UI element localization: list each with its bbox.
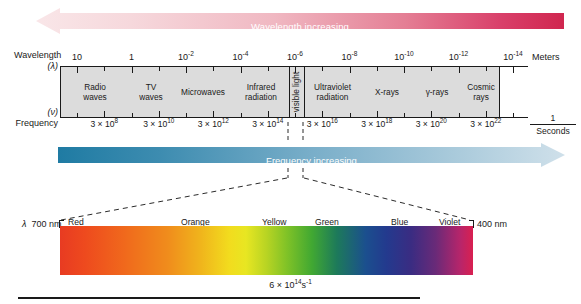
frequency-tick-label: 3 × 1012	[198, 119, 229, 129]
seconds-unit-numerator: 1	[530, 113, 576, 123]
frequency-tick-base: 3 × 10	[470, 119, 494, 129]
band-label-line1: X-rays	[375, 87, 399, 98]
frequency-tick-base: 3 × 10	[198, 119, 222, 129]
band-label: Cosmicrays	[467, 82, 495, 103]
visible-frequency-base: 6 × 10	[269, 280, 294, 290]
wavelength-axis-caption: Wavelength (λ)	[14, 50, 58, 72]
frequency-major-tick	[322, 111, 323, 117]
frequency-tick-label: 3 × 1018	[361, 119, 392, 129]
wavelength-tick-label: 10-14	[503, 52, 523, 62]
wavelength-tick-base: 10	[449, 52, 459, 62]
frequency-minor-tick	[132, 113, 133, 117]
frequency-tick-base: 3 × 10	[416, 119, 440, 129]
band-label: Microwaves	[181, 87, 225, 98]
frequency-major-tick	[268, 111, 269, 117]
fraction-bar	[530, 124, 576, 125]
wavelength-major-tick	[404, 67, 405, 73]
band-label: Infraredradiation	[245, 82, 277, 103]
frequency-major-tick	[377, 111, 378, 117]
wavelength-tick-label: 10	[72, 52, 82, 62]
frequency-tick-label: 3 × 1014	[252, 119, 283, 129]
frequency-major-tick	[213, 111, 214, 117]
wavelength-tick-base: 10	[233, 52, 243, 62]
wavelength-tick-label: 10-6	[287, 52, 303, 62]
electromagnetic-spectrum-figure: Wavelength increasing Wavelength (λ) Met…	[0, 0, 581, 304]
wavelength-tick-base: 10	[72, 52, 82, 62]
lambda-symbol: λ	[22, 219, 26, 229]
wavelength-tick-label: 10-8	[342, 52, 358, 62]
frequency-minor-tick	[350, 113, 351, 117]
visible-right-wavelength: 400 nm	[477, 219, 507, 229]
band-label: Radiowaves	[83, 82, 107, 103]
band-label-line1: Ultraviolet	[314, 82, 351, 93]
band-region: X-rays	[361, 67, 413, 117]
wavelength-tick-label: 1	[129, 52, 134, 62]
wavelength-minor-tick	[486, 67, 487, 71]
band-label-line2: radiation	[314, 92, 351, 103]
wavelength-tick-base: 10	[503, 52, 513, 62]
band-region: Radiowaves	[61, 67, 129, 117]
wavelength-tick-exponent: -12	[459, 50, 469, 57]
frequency-tick-exponent: 8	[115, 117, 119, 124]
frequency-tick-exponent: 20	[440, 117, 447, 124]
band-divider	[289, 67, 290, 117]
band-label-line1: Radio	[83, 82, 107, 93]
frequency-minor-tick	[241, 113, 242, 117]
band-divider	[304, 67, 305, 117]
frequency-caption-line2: Frequency	[10, 118, 58, 129]
caption-rule	[18, 297, 420, 299]
frequency-tick-base: 3 × 10	[361, 119, 385, 129]
frequency-major-tick	[159, 111, 160, 117]
wavelength-tick-exponent: -6	[297, 50, 303, 57]
band-label: TVwaves	[139, 82, 163, 103]
band-region: Infraredradiation	[233, 67, 289, 117]
frequency-tick-label: 3 × 1016	[307, 119, 338, 129]
band-region: Microwaves	[173, 67, 233, 117]
wavelength-caption-symbol: (λ)	[14, 61, 58, 72]
wavelength-tick-label: 10-2	[178, 52, 194, 62]
band-region: Cosmicrays	[461, 67, 501, 117]
wavelength-minor-tick	[104, 67, 105, 71]
frequency-increasing-arrow: Frequency increasing	[58, 143, 565, 167]
wavelength-major-tick	[241, 67, 242, 73]
wavelength-increasing-arrow: Wavelength increasing	[36, 8, 564, 34]
visible-left-wavelength: λ700 nm	[22, 219, 61, 229]
frequency-tick-base: 3 × 10	[143, 119, 167, 129]
band-label-line2: waves	[83, 92, 107, 103]
frequency-major-tick	[104, 111, 105, 117]
visible-frequency-exponent: 14	[294, 278, 301, 285]
wavelength-major-tick	[350, 67, 351, 73]
band-region: Ultravioletradiation	[304, 67, 361, 117]
frequency-tick-label: 3 × 1020	[416, 119, 447, 129]
frequency-tick-exponent: 12	[222, 117, 229, 124]
frequency-tick-base: 3 × 10	[252, 119, 276, 129]
wavelength-major-tick	[186, 67, 187, 73]
frequency-tick-exponent: 10	[167, 117, 174, 124]
band-label: Ultravioletradiation	[314, 82, 351, 103]
frequency-tick-label: 3 × 1022	[470, 119, 501, 129]
wavelength-minor-tick	[377, 67, 378, 71]
wavelength-major-tick	[295, 67, 296, 73]
frequency-arrow-label: Frequency increasing	[58, 155, 565, 166]
band-label-line2: waves	[139, 92, 163, 103]
wavelength-tick-base: 10	[287, 52, 297, 62]
wavelength-tick-base: 10	[394, 52, 404, 62]
frequency-minor-tick	[404, 113, 405, 117]
band-label-line1: Cosmic	[467, 82, 495, 93]
wavelength-minor-tick	[322, 67, 323, 71]
band-label: X-rays	[375, 87, 399, 98]
band-label-line1: Infrared	[245, 82, 277, 93]
spectrum-band: RadiowavesTVwavesMicrowavesInfraredradia…	[60, 67, 500, 117]
wavelength-tick-exponent: -10	[404, 50, 414, 57]
frequency-minor-tick	[513, 113, 514, 117]
visible-frequency-unit-exponent: -1	[306, 278, 312, 285]
band-region: TVwaves	[129, 67, 173, 117]
wavelength-tick-exponent: -2	[188, 50, 194, 57]
band-label-line2: rays	[467, 92, 495, 103]
wavelength-tick-exponent: -4	[243, 50, 249, 57]
visible-left-wavelength-value: 700 nm	[31, 219, 61, 229]
wavelength-tick-base: 10	[342, 52, 352, 62]
wavelength-minor-tick	[159, 67, 160, 71]
frequency-tick-base: 3 × 10	[307, 119, 331, 129]
band-label-line1: TV	[139, 82, 163, 93]
